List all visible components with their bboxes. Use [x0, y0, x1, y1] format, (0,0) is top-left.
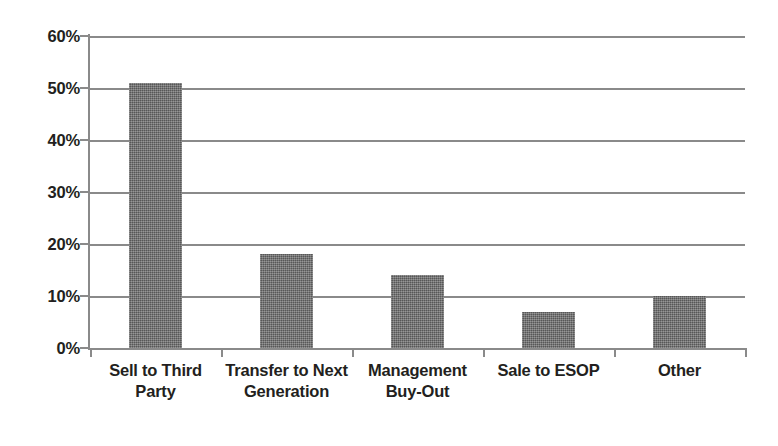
y-axis-labels: 60%50%40%30%20%10%0% [0, 0, 80, 446]
bar-chart: 60%50%40%30%20%10%0% Sell to Third Party… [0, 0, 778, 446]
plot-area [90, 36, 745, 348]
y-axis-tick-label: 30% [2, 184, 80, 201]
x-axis-tick-mark [90, 348, 92, 357]
x-axis-ticks [0, 348, 778, 360]
x-axis-category-label: Other [614, 360, 745, 381]
x-axis-category-label: Sale to ESOP [483, 360, 614, 381]
bar [653, 296, 706, 348]
y-axis-tick-mark [80, 87, 89, 89]
y-axis-tick-mark [80, 191, 89, 193]
x-axis-category-label: Management Buy-Out [352, 360, 483, 402]
x-axis-tick-mark [745, 348, 747, 357]
y-axis-tick-label: 10% [2, 288, 80, 305]
y-axis-tick-label: 60% [2, 28, 80, 45]
y-axis-tick-mark [80, 35, 89, 37]
bar [522, 312, 575, 348]
x-axis-labels: Sell to Third PartyTransfer to Next Gene… [90, 360, 745, 446]
y-axis-tick-label: 20% [2, 236, 80, 253]
x-axis-category-label: Transfer to Next Generation [221, 360, 352, 402]
x-axis-category-label: Sell to Third Party [90, 360, 221, 402]
bar [129, 83, 182, 348]
x-axis-tick-mark [221, 348, 223, 357]
y-axis-tick-mark [80, 295, 89, 297]
x-axis-tick-mark [352, 348, 354, 357]
y-axis-tick-mark [80, 139, 89, 141]
bar [391, 275, 444, 348]
bar-series [90, 36, 745, 348]
y-axis-tick-mark [80, 243, 89, 245]
x-axis-tick-mark [614, 348, 616, 357]
y-axis-tick-label: 50% [2, 80, 80, 97]
x-axis-tick-mark [483, 348, 485, 357]
bar [260, 254, 313, 348]
y-axis-tick-label: 40% [2, 132, 80, 149]
y-axis-tick-mark [80, 347, 89, 349]
